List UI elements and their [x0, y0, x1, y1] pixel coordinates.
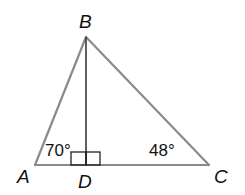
- right-angle-mark-right: [86, 152, 100, 165]
- right-angle-mark-left: [71, 152, 86, 165]
- vertex-label-d: D: [78, 171, 92, 192]
- vertex-label-b: B: [79, 11, 92, 32]
- edge-bc: [86, 37, 209, 165]
- triangle-diagram: A B C D 70° 48°: [0, 0, 245, 195]
- angle-label-c: 48°: [149, 141, 175, 160]
- vertex-label-a: A: [16, 166, 30, 187]
- vertex-label-c: C: [214, 166, 228, 187]
- angle-label-a: 70°: [45, 141, 71, 160]
